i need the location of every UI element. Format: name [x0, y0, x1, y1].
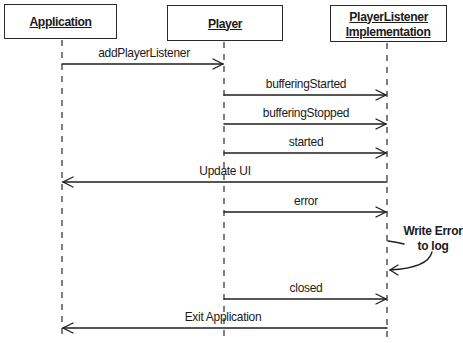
message-label-bufferingstarted: bufferingStarted — [266, 77, 346, 91]
arrow-bufferingstopped — [224, 119, 386, 129]
arrow-update-ui — [63, 177, 387, 187]
arrow-bufferingstarted — [224, 90, 386, 100]
message-label-write-error-line1: Write Error — [403, 224, 462, 238]
arrow-started — [224, 148, 386, 158]
message-label-started: started — [289, 135, 324, 149]
message-label-closed: closed — [290, 281, 323, 295]
message-label-write-error-line2: to log — [418, 239, 449, 253]
message-label-exit-application: Exit Application — [185, 310, 262, 324]
message-label-error: error — [294, 194, 318, 208]
arrow-exit-application — [63, 323, 387, 333]
message-label-bufferingstopped: bufferingStopped — [263, 106, 349, 120]
message-label-addplayerlistener: addPlayerListener — [98, 46, 190, 60]
arrow-addplayerlistener — [62, 59, 223, 69]
arrow-closed — [224, 294, 386, 304]
arrow-error — [224, 207, 386, 217]
message-label-update-ui: Update UI — [199, 164, 250, 178]
